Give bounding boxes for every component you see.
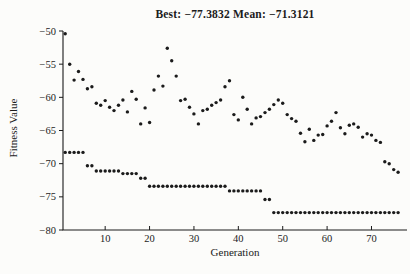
data-point (81, 78, 84, 81)
data-point (86, 87, 89, 90)
x-tick-label: 70 (366, 233, 377, 244)
data-point (201, 185, 204, 188)
data-point (299, 132, 302, 135)
chart-title: Best: −77.3832 Mean: −71.3121 (63, 8, 407, 20)
data-point (259, 115, 262, 118)
data-point (152, 185, 155, 188)
data-point (370, 211, 373, 214)
data-point (357, 126, 360, 129)
data-point (334, 111, 337, 114)
data-point (365, 211, 368, 214)
data-point (268, 108, 271, 111)
data-point (188, 106, 191, 109)
series-best-fitness (63, 151, 399, 215)
data-point (112, 169, 115, 172)
data-point (237, 118, 240, 121)
data-point (268, 198, 271, 201)
data-point (286, 211, 289, 214)
data-point (374, 139, 377, 142)
y-axis-label: Fitness Value (7, 73, 19, 183)
data-point (170, 185, 173, 188)
data-point (130, 172, 133, 175)
data-point (210, 104, 213, 107)
data-point (352, 122, 355, 125)
data-point (135, 172, 138, 175)
data-point (290, 211, 293, 214)
data-point (108, 169, 111, 172)
data-point (388, 211, 391, 214)
data-point (86, 164, 89, 167)
data-point (117, 104, 120, 107)
data-point (250, 122, 253, 125)
data-point (223, 85, 226, 88)
data-point (303, 211, 306, 214)
data-point (188, 185, 191, 188)
data-point (143, 106, 146, 109)
data-point (294, 211, 297, 214)
x-axis-label: Generation (63, 246, 407, 258)
plot-canvas: 10203040506070−50−55−60−65−70−75−80 (0, 0, 410, 274)
y-tick-label: −75 (40, 191, 56, 202)
data-point (183, 98, 186, 101)
data-point (179, 185, 182, 188)
series-mean-fitness (63, 32, 399, 174)
y-tick-label: −65 (40, 125, 56, 136)
data-point (308, 211, 311, 214)
data-point (246, 108, 249, 111)
data-point (63, 32, 66, 35)
data-point (361, 211, 364, 214)
data-point (379, 141, 382, 144)
y-tick-label: −60 (40, 92, 56, 103)
data-point (139, 177, 142, 180)
data-point (370, 133, 373, 136)
data-point (312, 211, 315, 214)
data-point (317, 211, 320, 214)
data-point (192, 112, 195, 115)
data-point (197, 185, 200, 188)
data-point (157, 185, 160, 188)
data-point (277, 211, 280, 214)
data-point (206, 185, 209, 188)
data-point (228, 79, 231, 82)
data-point (166, 185, 169, 188)
data-point (299, 211, 302, 214)
data-point (325, 211, 328, 214)
data-point (63, 151, 66, 154)
data-point (219, 98, 222, 101)
x-tick-label: 40 (233, 233, 244, 244)
y-tick-label: −70 (40, 158, 56, 169)
data-point (166, 47, 169, 50)
data-point (135, 98, 138, 101)
data-point (392, 211, 395, 214)
data-point (277, 98, 280, 101)
data-point (183, 185, 186, 188)
data-point (365, 132, 368, 135)
data-point (121, 172, 124, 175)
data-point (343, 132, 346, 135)
data-point (303, 140, 306, 143)
data-point (290, 117, 293, 120)
x-tick-label: 50 (277, 233, 288, 244)
data-point (148, 121, 151, 124)
data-point (237, 189, 240, 192)
data-point (126, 110, 129, 113)
data-point (223, 185, 226, 188)
data-point (121, 98, 124, 101)
data-point (348, 211, 351, 214)
data-point (175, 185, 178, 188)
data-point (317, 133, 320, 136)
data-point (330, 120, 333, 123)
y-tick-label: −80 (40, 225, 56, 236)
data-point (214, 185, 217, 188)
data-point (246, 189, 249, 192)
data-point (68, 151, 71, 154)
data-point (383, 160, 386, 163)
axes-spines (63, 31, 407, 230)
data-point (334, 211, 337, 214)
data-point (130, 90, 133, 93)
data-point (308, 128, 311, 131)
data-point (263, 198, 266, 201)
data-point (219, 185, 222, 188)
data-point (148, 185, 151, 188)
data-point (214, 101, 217, 104)
